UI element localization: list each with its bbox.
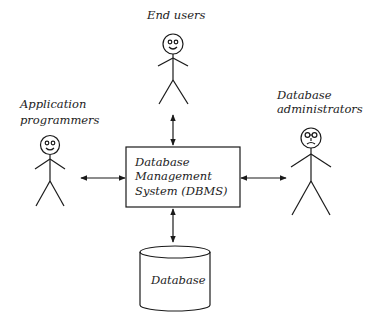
db-admins-label-line2: administrators (277, 102, 363, 116)
app-programmers-figure-icon (35, 136, 65, 207)
app-programmers-label-line2: programmers (20, 113, 100, 127)
end-users-label: End users (146, 8, 205, 22)
db-admins-figure-icon (291, 128, 331, 215)
dbms-label-line2: Management (134, 169, 212, 183)
dbms-label-line3: System (DBMS) (135, 184, 228, 198)
end-users-figure-icon (158, 34, 188, 104)
dbms-diagram: End users Application programmers Databa… (0, 0, 380, 321)
app-programmers-label-line1: Application (19, 97, 86, 111)
database-label: Database (150, 273, 206, 287)
dbms-label-line1: Database (134, 155, 190, 169)
db-admins-label-line1: Database (276, 88, 332, 102)
